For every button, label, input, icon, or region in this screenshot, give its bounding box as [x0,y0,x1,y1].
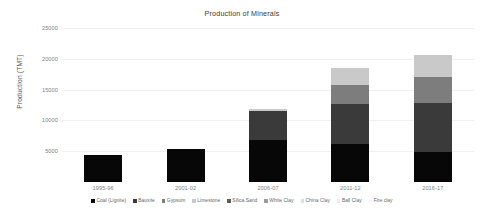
legend-item[interactable]: Gypsum [162,198,186,204]
legend-label: China Clay [306,198,330,204]
bar-segment[interactable] [249,140,287,183]
bar-segment[interactable] [331,85,369,104]
legend-label: Fire clay [374,198,393,204]
bar-stack[interactable] [84,155,122,182]
chart-figure: Production of Minerals Production (TMT) … [0,0,484,217]
y-axis-tick-label: 10000 [18,117,58,123]
bar-segment[interactable] [414,77,452,102]
bar-segment[interactable] [167,149,205,182]
legend-label: Ball Clay [342,198,362,204]
bar-segment[interactable] [331,144,369,182]
legend-label: Coal (Lignite) [96,198,126,204]
x-axis-tick-label: 2016-17 [398,185,468,191]
bar-segment[interactable] [414,55,452,77]
y-axis-tick-label: 15000 [18,87,58,93]
legend-swatch-icon [301,199,304,202]
legend-swatch-icon [227,199,230,202]
bar-segment[interactable] [331,104,369,144]
bar-segment[interactable] [414,152,452,182]
chart-legend: Coal (Lignite)BauxiteGypsumLimestoneSili… [0,198,484,204]
bar-segment[interactable] [84,155,122,182]
legend-label: Gypsum [167,198,186,204]
gridline [62,28,474,29]
legend-label: Limestone [197,198,220,204]
x-axis-tick-label: 2011-12 [315,185,385,191]
x-axis-tick-label: 2001-02 [151,185,221,191]
chart-title: Production of Minerals [0,9,484,18]
legend-swatch-icon [369,199,372,202]
bar-stack[interactable] [331,68,369,182]
bar-stack[interactable] [249,109,287,182]
legend-label: Bauxite [138,198,155,204]
legend-label: White Clay [269,198,293,204]
legend-item[interactable]: Ball Clay [337,198,362,204]
bar-segment[interactable] [414,103,452,152]
legend-item[interactable]: Limestone [192,198,220,204]
legend-item[interactable]: Bauxite [133,198,155,204]
legend-item[interactable]: Fire clay [369,198,393,204]
legend-swatch-icon [192,199,195,202]
bar-stack[interactable] [414,55,452,182]
plot-area [62,28,474,182]
x-axis-tick-label: 2006-07 [233,185,303,191]
legend-item[interactable]: Silica Sand [227,198,257,204]
legend-swatch-icon [91,199,94,202]
y-axis-tick-labels: 500010000150002000025000 [14,28,58,182]
bar-segment[interactable] [331,68,369,85]
gridline [62,59,474,60]
x-axis-tick-label: 1995-96 [68,185,138,191]
legend-swatch-icon [133,199,136,202]
legend-item[interactable]: Coal (Lignite) [91,198,126,204]
legend-swatch-icon [264,199,267,202]
bar-stack[interactable] [167,149,205,182]
x-axis-tick-labels: 1995-962001-022006-072011-122016-17 [62,185,474,195]
y-axis-tick-label: 5000 [18,148,58,154]
legend-swatch-icon [337,199,340,202]
bar-segment[interactable] [249,111,287,139]
legend-item[interactable]: White Clay [264,198,293,204]
y-axis-tick-label: 25000 [18,25,58,31]
y-axis-tick-label: 20000 [18,56,58,62]
legend-label: Silica Sand [232,198,257,204]
legend-item[interactable]: China Clay [301,198,330,204]
gridline [62,90,474,91]
legend-swatch-icon [162,199,165,202]
